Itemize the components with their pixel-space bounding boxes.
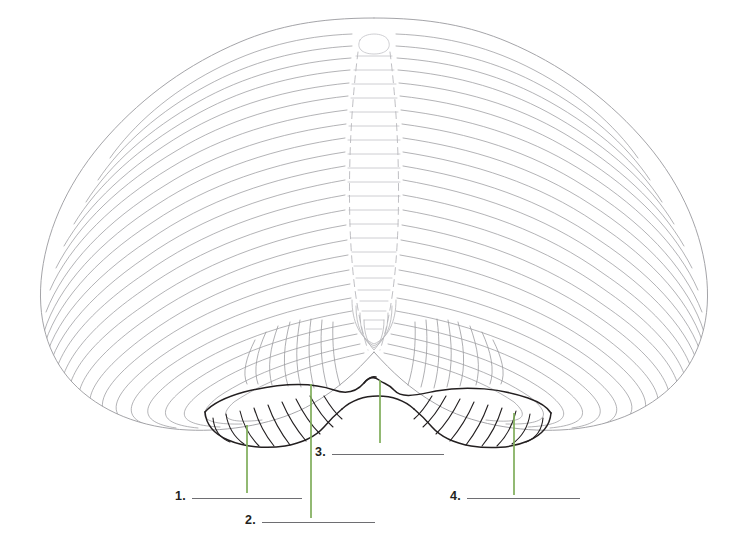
- answer-row-1[interactable]: 1.: [175, 489, 302, 503]
- answer-number-4: 4.: [450, 489, 461, 503]
- answer-row-4[interactable]: 4.: [450, 489, 580, 503]
- answer-blank-1[interactable]: [192, 498, 302, 499]
- right-hemisphere-folia: [384, 34, 705, 428]
- inferior-vermis-folia: [352, 300, 396, 350]
- answer-number-1: 1.: [175, 489, 186, 503]
- answer-row-2[interactable]: 2.: [245, 513, 375, 527]
- answer-row-3[interactable]: 3.: [315, 445, 444, 459]
- vermis-lateral-borders: [349, 52, 398, 350]
- vermis: [348, 34, 400, 329]
- answer-blank-3[interactable]: [332, 454, 444, 455]
- answer-blank-4[interactable]: [467, 498, 580, 499]
- cerebellum-diagram: [0, 0, 748, 545]
- answer-blank-2[interactable]: [262, 522, 375, 523]
- left-hemisphere-folia: [43, 34, 364, 428]
- answer-number-2: 2.: [245, 513, 256, 527]
- answer-number-3: 3.: [315, 445, 326, 459]
- worksheet-canvas: 1. 2. 3. 4.: [0, 0, 748, 545]
- cerebellar-tonsils: [205, 377, 551, 448]
